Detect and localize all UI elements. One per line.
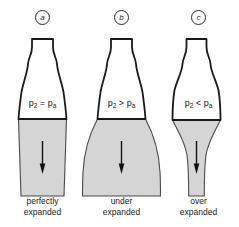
caption-b-line1: under — [79, 196, 164, 207]
caption-a-line1: perfectly — [0, 196, 85, 207]
pressure-symbol-c-right: p — [204, 98, 209, 108]
caption-b-line2: expanded — [79, 207, 164, 218]
caption-c-line1: over — [158, 196, 239, 207]
pressure-symbol-c-left: p — [185, 98, 190, 108]
caption-a: perfectly expanded — [0, 196, 85, 217]
nozzle-diagram-b — [79, 0, 164, 227]
caption-a-line2: expanded — [0, 207, 85, 218]
caption-c-line2: expanded — [158, 207, 239, 218]
pressure-operator-b: > — [119, 98, 124, 108]
pressure-symbol-a-right: p — [48, 98, 53, 108]
panel-under-expanded: b p2 > pa under expanded — [79, 0, 164, 227]
pressure-sub-b-left: 2 — [113, 102, 117, 109]
pressure-symbol-b-right: p — [127, 98, 132, 108]
nozzle-diagram-a — [0, 0, 85, 227]
pressure-symbol-a-left: p — [29, 98, 34, 108]
caption-b: under expanded — [79, 196, 164, 217]
pressure-relation-c: p2 < pa — [158, 99, 239, 108]
pressure-sub-c-left: 2 — [190, 102, 194, 109]
pressure-relation-b: p2 > pa — [79, 99, 164, 108]
pressure-relation-a: p2 = pa — [0, 99, 85, 108]
nozzle-diagram-c — [158, 0, 239, 227]
pressure-operator-c: < — [196, 98, 201, 108]
panel-perfectly-expanded: a p2 = pa perfectly expanded — [0, 0, 85, 227]
pressure-sub-b-right: a — [132, 102, 136, 109]
pressure-sub-a-left: 2 — [34, 102, 38, 109]
caption-c: over expanded — [158, 196, 239, 217]
pressure-symbol-b-left: p — [108, 98, 113, 108]
nozzle-expansion-figure: a p2 = pa perfectly expanded — [0, 0, 239, 227]
pressure-sub-c-right: a — [209, 102, 213, 109]
pressure-sub-a-right: a — [53, 102, 57, 109]
pressure-operator-a: = — [40, 98, 45, 108]
panel-over-expanded: c p2 < pa over expanded — [158, 0, 239, 227]
